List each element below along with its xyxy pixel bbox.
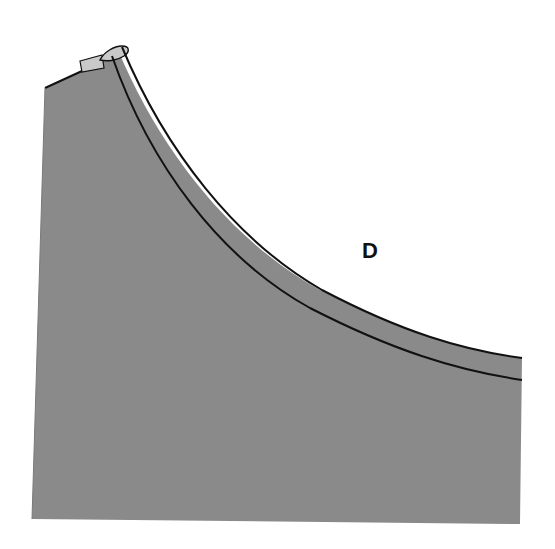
diagram-canvas: D bbox=[0, 0, 555, 549]
fabric-panel-illustration bbox=[0, 0, 555, 549]
figure-label: D bbox=[362, 240, 378, 262]
